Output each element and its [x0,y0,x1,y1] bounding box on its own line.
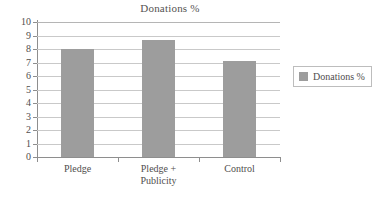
y-axis-tick-mark [33,117,37,118]
bar [61,49,94,157]
y-axis-tick-mark [33,144,37,145]
y-axis-tick-mark [33,76,37,77]
y-axis-tick-mark [33,63,37,64]
y-axis-tick-mark [33,22,37,23]
y-axis-tick-label: 5 [1,85,31,95]
y-axis-tick-mark [33,36,37,37]
y-axis-tick-label: 9 [1,31,31,41]
y-axis-tick-label: 10 [1,17,31,27]
x-axis-tick-mark [37,157,38,162]
y-axis-labels: 109876543210 [0,0,31,198]
x-axis-tick-mark [118,157,119,162]
y-axis-tick-mark [33,49,37,50]
x-axis-category-label: Pledge + Publicity [118,163,199,187]
y-axis-tick-label: 7 [1,58,31,68]
y-axis-tick-label: 0 [1,152,31,162]
x-axis-tick-mark [199,157,200,162]
bar [142,40,175,157]
y-axis-tick-label: 6 [1,71,31,81]
x-axis-tick-mark [280,157,281,162]
chart-legend: Donations % [293,66,372,87]
x-axis-category-label: Pledge [37,163,118,175]
chart-title: Donations % [60,2,280,14]
y-axis-tick-mark [33,90,37,91]
y-axis-tick-mark [33,130,37,131]
y-axis-tick-label: 1 [1,139,31,149]
legend-item-label: Donations % [313,71,365,82]
y-axis-tick-mark [33,103,37,104]
y-axis-tick-label: 8 [1,44,31,54]
bar-chart: Donations % 109876543210 PledgePledge + … [0,0,381,198]
y-axis-tick-label: 2 [1,125,31,135]
bar [223,61,256,157]
y-axis-tick-label: 3 [1,112,31,122]
bars-layer [37,22,280,157]
x-axis-line [37,157,281,158]
y-axis-tick-label: 4 [1,98,31,108]
legend-swatch-icon [299,72,308,81]
x-axis-category-label: Control [199,163,280,175]
plot-area [37,22,280,157]
y-axis-tick-mark [33,157,37,158]
